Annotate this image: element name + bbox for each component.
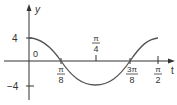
origin-label: 0	[33, 49, 38, 59]
y-axis-label: y	[34, 4, 41, 15]
svg-text:8: 8	[58, 75, 63, 85]
x-axis-arrow-icon	[168, 59, 175, 64]
y-tick-label-neg4: −4	[7, 81, 19, 92]
svg-text:8: 8	[129, 75, 134, 85]
x-tick-label-pi-8: π 8	[57, 65, 65, 85]
svg-text:π: π	[155, 65, 161, 74]
svg-text:4: 4	[93, 44, 98, 54]
y-axis-arrow-icon	[27, 4, 32, 11]
x-tick-label-pi-4: π 4	[92, 34, 100, 54]
y-tick-label-4: 4	[12, 33, 18, 44]
x-axis-label: t	[171, 65, 174, 76]
svg-text:3π: 3π	[127, 65, 137, 74]
svg-text:π: π	[58, 65, 64, 74]
x-tick-label-pi-2: π 2	[154, 65, 162, 85]
svg-text:π: π	[93, 34, 99, 43]
svg-text:2: 2	[155, 75, 160, 85]
cosine-chart: y t 0 4 −4 π 8 π 4 3π 8 π 2	[0, 0, 177, 105]
x-tick-label-3pi-8: 3π 8	[126, 65, 138, 85]
